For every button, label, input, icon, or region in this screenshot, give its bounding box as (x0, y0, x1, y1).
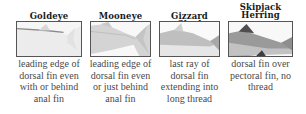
fish-title: Skipjack Herring (228, 3, 293, 19)
gizzard-shad-fish-icon (160, 22, 219, 56)
fish-image (228, 21, 293, 57)
fish-title: Goldeye (16, 12, 82, 20)
goldeye-fish-icon (17, 22, 81, 56)
fish-image (159, 21, 220, 57)
fish-caption: dorsal fin over pectoral fin, no thread (222, 58, 299, 93)
mooneye-fish-icon (91, 22, 150, 56)
fish-image (90, 21, 151, 57)
fish-caption: leading edge of dorsal fin even or just … (84, 58, 157, 104)
fish-caption: last ray of dorsal fin extending into lo… (153, 58, 226, 104)
fish-image (16, 21, 82, 57)
fish-caption: leading edge of dorsal fin even with or … (10, 58, 88, 104)
skipjack-herring-fish-icon (229, 22, 292, 56)
fish-title: Mooneye (90, 12, 151, 20)
